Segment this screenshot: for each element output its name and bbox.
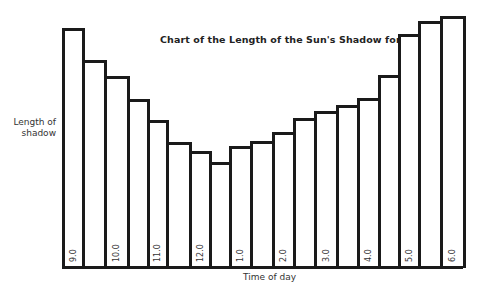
y-axis-label-line2: shadow: [4, 128, 56, 139]
x-tick-label: 4.0: [364, 249, 373, 262]
x-tick-label: 1.0: [236, 249, 245, 262]
x-tick-label: 6.0: [448, 249, 457, 262]
x-tick-label: 9.0: [69, 249, 78, 262]
chart-title: Chart of the Length of the Sun's Shadow …: [160, 34, 435, 45]
x-tick-label: 5.0: [405, 249, 414, 262]
x-tick-label: 11.0: [153, 244, 162, 262]
x-tick-label: 10.0: [112, 244, 121, 262]
y-axis-label: Length of shadow: [4, 117, 56, 139]
x-tick-label: 12.0: [196, 244, 205, 262]
x-axis-label: Time of day: [243, 272, 296, 282]
x-tick-label: 3.0: [322, 249, 331, 262]
shadow-length-bar-chart: Chart of the Length of the Sun's Shadow …: [0, 0, 481, 297]
bar-6-0: [440, 16, 466, 268]
x-axis-line: [62, 266, 463, 269]
y-axis-label-line1: Length of: [4, 117, 56, 128]
x-tick-label: 2.0: [279, 249, 288, 262]
